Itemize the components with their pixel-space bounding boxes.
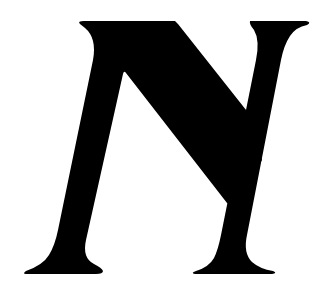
- glyph-icon: [0, 0, 319, 301]
- letterform-glyph: [0, 0, 319, 301]
